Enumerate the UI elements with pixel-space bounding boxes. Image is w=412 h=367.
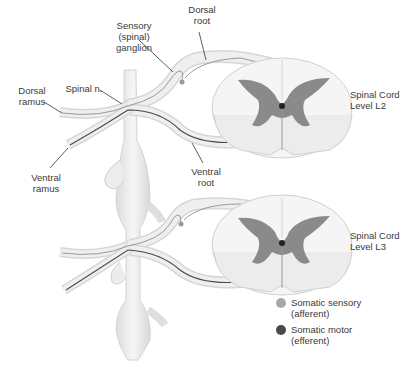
- label-dorsal-root: Dorsal root: [182, 4, 222, 26]
- label-line: Ventral: [26, 172, 66, 183]
- legend-label: Somatic sensory: [291, 297, 361, 308]
- label-line: Ventral: [186, 166, 226, 177]
- spinal-cord-l2: [212, 58, 352, 158]
- legend-text: Somatic sensory (afferent): [291, 297, 361, 319]
- legend-item-motor: Somatic motor (efferent): [276, 324, 352, 346]
- label-line: root: [186, 177, 226, 188]
- label-line: Spinal Cord: [350, 89, 400, 100]
- label-line: Level L3: [350, 241, 400, 252]
- motor-dot-icon: [276, 325, 286, 335]
- label-line: Sensory: [104, 20, 164, 31]
- label-dorsal-ramus: Dorsal ramus: [12, 85, 52, 107]
- legend-label: Somatic motor: [291, 324, 352, 335]
- label-line: Dorsal: [182, 4, 222, 15]
- label-line: ganglion: [104, 42, 164, 53]
- label-ventral-root: Ventral root: [186, 166, 226, 188]
- sensory-dot-icon: [276, 298, 286, 308]
- label-line: ramus: [12, 96, 52, 107]
- label-line: ramus: [26, 183, 66, 194]
- label-line: Spinal n.: [66, 83, 103, 94]
- legend-text: Somatic motor (efferent): [291, 324, 352, 346]
- label-ventral-ramus: Ventral ramus: [26, 172, 66, 194]
- label-cord-l3: Spinal Cord Level L3: [350, 230, 400, 252]
- label-line: Spinal Cord: [350, 230, 400, 241]
- label-line: root: [182, 15, 222, 26]
- spinal-cord-l3: [212, 195, 352, 295]
- label-line: Level L2: [350, 100, 400, 111]
- legend-item-sensory: Somatic sensory (afferent): [276, 297, 361, 319]
- label-line: (spinal): [104, 31, 164, 42]
- legend-sublabel: (efferent): [291, 335, 352, 346]
- legend-sublabel: (afferent): [291, 308, 361, 319]
- label-cord-l2: Spinal Cord Level L2: [350, 89, 400, 111]
- label-spinal-nerve: Spinal n.: [62, 83, 106, 94]
- label-sensory-ganglion: Sensory (spinal) ganglion: [104, 20, 164, 53]
- label-line: Dorsal: [12, 85, 52, 96]
